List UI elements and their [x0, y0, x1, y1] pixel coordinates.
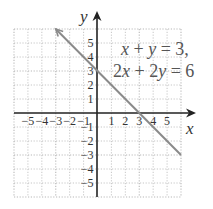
equation-1: x + y = 3,: [120, 39, 189, 59]
x-tick-label: −4: [35, 114, 48, 128]
x-tick-label: −2: [63, 114, 76, 128]
x-tick-label: −5: [22, 114, 35, 128]
y-tick-label: 2: [88, 78, 94, 92]
y-tick-label: 1: [88, 92, 94, 106]
x-tick-label: −3: [49, 114, 62, 128]
x-tick-label: 1: [108, 114, 114, 128]
equation-2: 2x + 2y = 6: [113, 61, 194, 81]
y-tick-label: −2: [81, 134, 94, 148]
coordinate-graph: −5−4−3−2−112345−5−4−3−2−112345 y x x + y…: [0, 0, 213, 209]
x-tick-label: 2: [122, 114, 128, 128]
y-tick-label: −4: [81, 162, 94, 176]
y-tick-label: −1: [81, 120, 94, 134]
x-tick-label: 5: [164, 114, 170, 128]
x-axis-label: x: [185, 119, 194, 138]
y-tick-label: 5: [88, 36, 94, 50]
y-tick-label: −3: [81, 148, 94, 162]
y-tick-label: −5: [81, 176, 94, 190]
y-axis-label: y: [78, 7, 88, 26]
